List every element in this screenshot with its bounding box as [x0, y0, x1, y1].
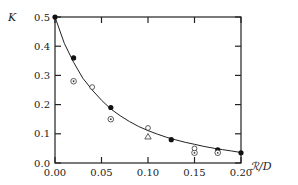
filled-circle-point: [71, 55, 76, 60]
open-circle-point: [146, 126, 151, 131]
data-points: [52, 14, 243, 155]
triangle-point: [145, 134, 151, 139]
fit-curve: [55, 17, 241, 153]
circle-dot-point: [108, 116, 114, 122]
circle-dot-point: [71, 78, 77, 84]
x-tick-label: 0.10: [137, 167, 159, 178]
filled-circle-point: [169, 137, 174, 142]
x-tick-label: 0.15: [183, 167, 205, 178]
filled-circle-point: [108, 105, 113, 110]
y-axis-label: K: [7, 11, 17, 24]
open-circle-point: [90, 85, 95, 90]
open-circle-point: [192, 146, 197, 151]
plot-frame: [55, 17, 241, 163]
circle-dot-point: [215, 150, 221, 156]
ticks: [55, 17, 241, 163]
y-tick-label: 0.0: [34, 158, 50, 169]
x-tick-label: 0.20: [230, 167, 252, 178]
y-tick-label: 0.5: [34, 12, 50, 23]
y-tick-label: 0.2: [34, 99, 50, 110]
y-tick-label: 0.4: [34, 41, 50, 52]
x-tick-label: 0.05: [90, 167, 112, 178]
x-tick-label: 0.00: [44, 167, 66, 178]
filled-circle-point: [52, 14, 57, 19]
y-tick-label: 0.1: [34, 128, 50, 139]
filled-circle-point: [238, 150, 243, 155]
x-axis-label: ℛ/D: [250, 160, 272, 173]
y-tick-label: 0.3: [34, 70, 50, 81]
chart: 0.000.050.100.150.200.00.10.20.30.40.5 K…: [0, 0, 298, 185]
